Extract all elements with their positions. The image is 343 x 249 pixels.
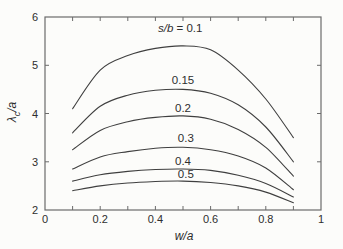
curve-label: 0.15 xyxy=(172,74,194,86)
y-axis-symbol: λ xyxy=(5,116,19,122)
curve-= 0.1 xyxy=(73,46,294,138)
curve-0.2 xyxy=(73,116,294,176)
y-tick-label: 6 xyxy=(32,11,38,23)
y-tick-label: 4 xyxy=(32,108,38,120)
curve-label: 0.4 xyxy=(175,155,192,167)
y-axis-suffix: /a xyxy=(5,102,19,112)
curve-label: 0.2 xyxy=(175,102,191,114)
curve-0.15 xyxy=(73,89,294,162)
y-tick-label: 2 xyxy=(32,204,38,216)
y-axis-label: λc/a xyxy=(6,102,21,122)
y-tick-label: 3 xyxy=(32,156,38,168)
x-tick-label: 1 xyxy=(318,213,324,225)
x-axis-label-text: w/a xyxy=(175,229,194,243)
curve-label: 0.5 xyxy=(178,168,194,180)
curve-label: s/b = 0.1 xyxy=(158,22,202,34)
x-tick-label: 0 xyxy=(42,213,48,225)
x-tick-label: 0.2 xyxy=(93,213,108,225)
y-tick-label: 5 xyxy=(32,59,38,71)
x-tick-label: 0.8 xyxy=(258,213,273,225)
chart-figure: 00.20.40.60.8123456s/b = 0.10.150.20.30.… xyxy=(0,0,343,249)
x-tick-label: 0.4 xyxy=(148,213,163,225)
cutoff-wavelength-chart: 00.20.40.60.8123456s/b = 0.10.150.20.30.… xyxy=(0,0,343,249)
curve-0.5 xyxy=(73,181,294,203)
x-tick-label: 0.6 xyxy=(203,213,218,225)
curve-label: 0.3 xyxy=(178,132,194,144)
y-axis-subscript: c xyxy=(12,112,22,117)
x-axis-label: w/a xyxy=(175,230,194,242)
